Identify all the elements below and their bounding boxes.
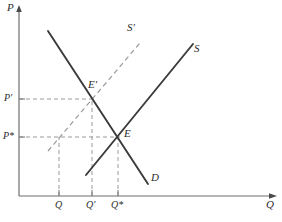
quantity-prime-tick-label: Q' (86, 200, 95, 210)
price-prime-tick-label: P' (4, 93, 12, 103)
equilibrium-shifted-label: E' (88, 79, 97, 90)
y-axis-label: P (7, 2, 14, 13)
supply-demand-diagram: P Q P' P* Q Q' Q* E' E S' S D (0, 0, 282, 222)
diagram-canvas (0, 0, 282, 222)
guide-lines-group (19, 97, 120, 196)
supply-curve (86, 44, 193, 175)
price-star-tick-label: P* (3, 131, 14, 141)
curves-group (48, 31, 193, 184)
x-axis-label: Q (266, 199, 274, 210)
supply-shifted-curve-label: S' (127, 22, 135, 33)
quantity-tick-label: Q (55, 200, 62, 210)
supply-curve-label: S (194, 43, 200, 54)
quantity-star-tick-label: Q* (111, 200, 123, 210)
demand-curve-label: D (151, 172, 159, 183)
y-axis-arrowhead (16, 5, 22, 12)
equilibrium-label: E (124, 128, 131, 139)
tick-marks-group (19, 99, 118, 196)
